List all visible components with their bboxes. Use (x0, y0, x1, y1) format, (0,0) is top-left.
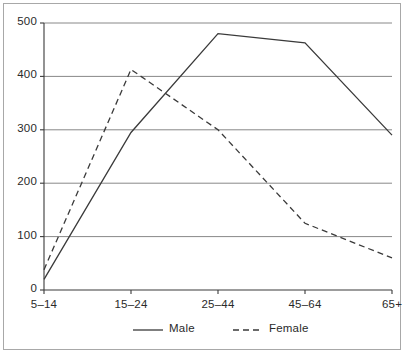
y-axis-tick-label: 500 (17, 15, 37, 27)
x-axis-tick-label: 5–14 (9, 298, 79, 310)
legend-label-male[interactable]: Male (169, 322, 195, 334)
y-axis-tick-label: 200 (17, 175, 37, 187)
series-line-female (44, 69, 392, 269)
series-line-male (44, 34, 392, 280)
x-axis-tick-label: 25–44 (183, 298, 253, 310)
y-axis-tick-label: 0 (30, 282, 37, 294)
chart-figure: 01002003004005005–1415–2425–4445–6465+Ma… (0, 0, 408, 359)
x-axis-tick-label: 15–24 (96, 298, 166, 310)
y-axis-tick-label: 300 (17, 122, 37, 134)
legend-label-female[interactable]: Female (269, 322, 309, 334)
x-axis-tick-label: 65+ (357, 298, 408, 310)
x-axis-tick-label: 45–64 (270, 298, 340, 310)
y-axis-tick-label: 400 (17, 68, 37, 80)
y-axis-tick-label: 100 (17, 229, 37, 241)
